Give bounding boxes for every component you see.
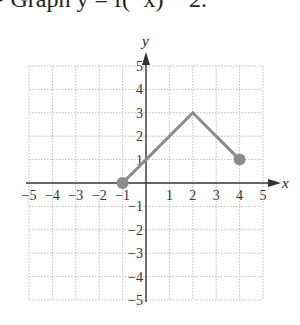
x-tick-label: 4	[236, 188, 243, 203]
x-tick-label: 3	[213, 188, 220, 203]
endpoint-dot	[234, 154, 246, 166]
graph: −5−4−3−2−11234554321−1−2−3−4−5 x y	[0, 0, 300, 325]
function-curve	[117, 113, 246, 189]
endpoint-dot	[117, 177, 129, 189]
x-tick-label: −4	[45, 188, 60, 203]
y-tick-label: −1	[128, 199, 143, 214]
y-tick-label: 3	[136, 106, 143, 121]
y-tick-label: −5	[128, 293, 143, 308]
x-tick-label: −3	[68, 188, 83, 203]
x-axis-label: x	[281, 175, 289, 191]
x-tick-label: 5	[260, 188, 267, 203]
x-tick-label: −5	[22, 188, 37, 203]
x-tick-label: 1	[166, 188, 173, 203]
x-tick-label: −2	[92, 188, 107, 203]
y-tick-label: −3	[128, 246, 143, 261]
x-axis-arrow-icon	[268, 179, 281, 187]
x-tick-label: 2	[189, 188, 196, 203]
y-tick-label: 5	[136, 59, 143, 74]
curve-line	[123, 113, 240, 183]
y-tick-label: 2	[136, 129, 143, 144]
y-tick-label: −2	[128, 223, 143, 238]
y-tick-label: −4	[128, 270, 143, 285]
y-axis-label: y	[140, 33, 149, 49]
y-tick-label: 4	[136, 82, 143, 97]
y-axis-arrow-icon	[142, 52, 150, 65]
